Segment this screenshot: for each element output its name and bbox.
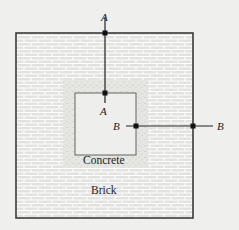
cross-section-diagram: A A B B Concrete Brick [0, 0, 239, 230]
label-concrete: Concrete [83, 154, 125, 166]
label-brick: Brick [91, 184, 117, 196]
node-a-inner [103, 91, 108, 96]
label-b-left: B [113, 120, 120, 132]
node-b-inner [134, 124, 139, 129]
node-a-outer [103, 31, 108, 36]
node-b-outer [191, 124, 196, 129]
label-a-bottom: A [99, 105, 107, 117]
label-a-top: A [100, 11, 108, 23]
label-b-right: B [217, 120, 224, 132]
